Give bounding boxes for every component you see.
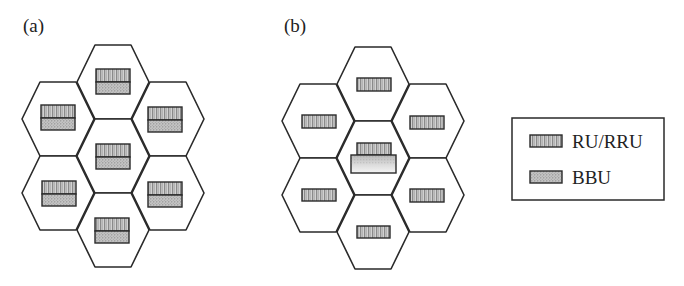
panel-b-label: (b): [284, 15, 306, 37]
ran-architecture-diagram: (a): [0, 0, 684, 286]
bbu-icon: [148, 195, 182, 207]
bbu-icon: [148, 120, 182, 132]
bbu-icon: [96, 82, 130, 94]
rru-icon-b-top: [357, 78, 391, 91]
legend-label-bbu: BBU: [572, 167, 611, 188]
rru-icon-b-bottom: [357, 226, 390, 238]
ru-icon: [148, 182, 182, 195]
ru-bbu-unit-a-bottom: [95, 218, 129, 243]
bbu-icon: [41, 118, 75, 130]
ru-icon: [41, 105, 75, 118]
rru-icon-b-center: [357, 143, 391, 155]
ru-bbu-unit-a-top: [96, 69, 130, 94]
bbu-icon: [95, 231, 129, 243]
rru-icon-b-lower-right: [410, 189, 444, 202]
panel-b: (b): [282, 15, 464, 269]
bbu-swatch-icon: [530, 171, 562, 183]
panel-a-label: (a): [23, 15, 44, 37]
legend: RU/RRU BBU: [512, 118, 664, 200]
rru-icon-b-upper-left: [302, 115, 336, 128]
legend-label-ru-rru: RU/RRU: [572, 131, 643, 152]
bbu-pool-b-center: [351, 155, 396, 173]
ru-icon: [96, 144, 130, 157]
ru-icon: [42, 181, 76, 194]
ru-bbu-unit-a-lower-left: [42, 181, 76, 206]
ru-bbu-unit-a-center: [96, 144, 130, 169]
bbu-pool-texture: [351, 155, 396, 165]
ru-icon: [96, 69, 130, 82]
ru-icon: [148, 107, 182, 120]
rru-icon-b-upper-right: [410, 116, 444, 129]
panel-a: (a): [22, 15, 204, 267]
rru-icon-b-lower-left: [302, 189, 336, 201]
ru-bbu-unit-a-upper-left: [41, 105, 75, 130]
bbu-icon: [96, 157, 130, 169]
bbu-icon: [42, 194, 76, 206]
ru-bbu-unit-a-upper-right: [148, 107, 182, 132]
ru-icon: [95, 218, 129, 231]
ru-swatch-icon: [530, 135, 562, 147]
ru-bbu-unit-a-lower-right: [148, 182, 182, 207]
